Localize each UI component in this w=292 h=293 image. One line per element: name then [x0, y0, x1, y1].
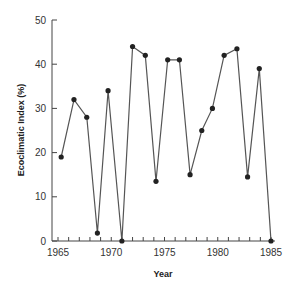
ecoclimatic-index-chart: 0102030405019651970197519801985 Ecoclima…	[0, 0, 292, 293]
data-point	[257, 66, 262, 71]
data-point	[59, 154, 64, 159]
y-tick-label: 0	[40, 236, 46, 247]
x-tick-label: 1975	[153, 247, 176, 258]
axes: 0102030405019651970197519801985	[35, 15, 283, 259]
x-tick-label: 1965	[47, 247, 70, 258]
x-tick-label: 1985	[260, 247, 283, 258]
data-point	[210, 106, 215, 111]
data-point	[105, 88, 110, 93]
data-point	[268, 238, 273, 243]
y-tick-label: 50	[35, 15, 47, 26]
data-point	[130, 44, 135, 49]
data-point	[95, 230, 100, 235]
data-point	[153, 179, 158, 184]
x-tick-label: 1970	[100, 247, 123, 258]
data-point	[187, 172, 192, 177]
data-point	[71, 97, 76, 102]
data-point	[84, 115, 89, 120]
y-axis-title: Ecoclimatic Index (%)	[16, 84, 26, 177]
y-tick-label: 30	[35, 103, 47, 114]
x-axis-title: Year	[153, 269, 173, 279]
data-point	[234, 46, 239, 51]
y-tick-label: 40	[35, 59, 47, 70]
data-point	[199, 128, 204, 133]
data-point	[177, 57, 182, 62]
data-point	[245, 174, 250, 179]
data-point	[165, 57, 170, 62]
data-point	[119, 238, 124, 243]
data-point	[143, 53, 148, 58]
y-tick-label: 10	[35, 191, 47, 202]
data-series	[59, 44, 274, 244]
x-tick-label: 1980	[207, 247, 230, 258]
series-line	[61, 47, 271, 242]
y-tick-label: 20	[35, 147, 47, 158]
data-point	[222, 53, 227, 58]
